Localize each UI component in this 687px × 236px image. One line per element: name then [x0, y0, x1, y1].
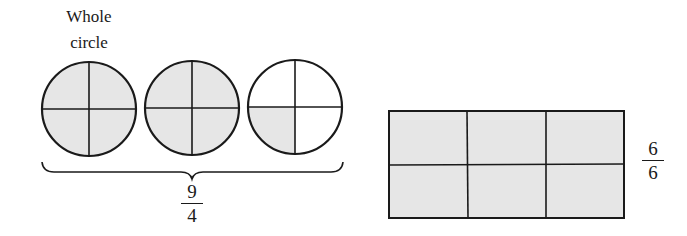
fraction-bar — [181, 203, 203, 204]
label-line-1: Whole — [66, 7, 111, 26]
denominator: 4 — [180, 206, 204, 225]
curly-brace — [42, 162, 343, 179]
fraction-bar — [642, 160, 664, 161]
whole-circle-label-2: circle — [49, 34, 129, 51]
circle-2 — [145, 61, 239, 155]
numerator: 6 — [641, 139, 665, 158]
circle-3 — [248, 60, 342, 154]
label-line-2: circle — [70, 33, 108, 52]
denominator: 6 — [641, 163, 665, 182]
numerator: 9 — [180, 182, 204, 201]
fraction-nine-fourths: 9 4 — [180, 182, 204, 225]
whole-circle-label: Whole — [49, 8, 129, 25]
circle-1 — [42, 62, 136, 156]
fraction-six-sixths: 6 6 — [641, 139, 665, 182]
rectangle-grid — [389, 111, 624, 218]
